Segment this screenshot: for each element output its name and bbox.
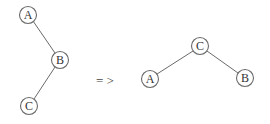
edge-before-a-b bbox=[33, 21, 55, 53]
before-tree: A B C bbox=[20, 7, 69, 115]
after-node-b-label: B bbox=[241, 71, 249, 85]
before-node-b-label: B bbox=[56, 53, 64, 67]
edge-after-c-a bbox=[157, 51, 193, 74]
before-node-c: C bbox=[21, 98, 38, 115]
edge-after-c-b bbox=[207, 51, 238, 73]
after-tree: C A B bbox=[142, 38, 254, 88]
after-node-b: B bbox=[237, 70, 254, 87]
before-node-b: B bbox=[52, 52, 69, 69]
transform-arrow: = > bbox=[96, 73, 114, 88]
tree-rotation-diagram: A B C = > C A B bbox=[0, 0, 270, 124]
after-node-a-label: A bbox=[146, 72, 155, 86]
edge-before-b-c bbox=[34, 67, 55, 99]
after-node-c: C bbox=[192, 38, 209, 55]
before-node-a-label: A bbox=[24, 8, 33, 22]
after-node-c-label: C bbox=[196, 39, 204, 53]
before-node-a: A bbox=[20, 7, 37, 24]
before-node-c-label: C bbox=[25, 99, 33, 113]
after-node-a: A bbox=[142, 71, 159, 88]
